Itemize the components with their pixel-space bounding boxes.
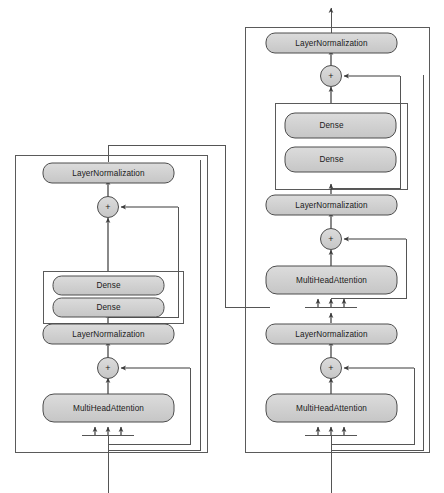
right-dense-lower-node[interactable]: Dense — [285, 147, 396, 172]
left-layernorm-top-node[interactable]: LayerNormalization — [43, 163, 174, 183]
right-layernorm-bottom-label: LayerNormalization — [295, 330, 368, 339]
left-add-top-node[interactable]: + — [98, 197, 119, 218]
right-add-bottom-label: + — [328, 363, 333, 373]
left-multiheadattention-node[interactable]: MultiHeadAttention — [43, 394, 174, 422]
right-add-top-node[interactable]: + — [321, 66, 342, 87]
left-dense-lower-node[interactable]: Dense — [53, 298, 164, 317]
right-add-top-label: + — [328, 71, 333, 81]
left-layernorm-mid-node[interactable]: LayerNormalization — [43, 324, 174, 344]
left-layernorm-top-label: LayerNormalization — [72, 169, 145, 178]
left-add-bottom-label: + — [105, 363, 110, 373]
left-dense-upper-node[interactable]: Dense — [53, 276, 164, 295]
right-dense-upper-label: Dense — [319, 121, 344, 130]
right-multiheadattention-self-label: MultiHeadAttention — [296, 404, 367, 413]
right-layernorm-mid-node[interactable]: LayerNormalization — [266, 195, 397, 215]
right-multiheadattention-cross-label: MultiHeadAttention — [296, 276, 367, 285]
right-multiheadattention-cross-node[interactable]: MultiHeadAttention — [266, 266, 397, 294]
right-add-bottom-node[interactable]: + — [321, 358, 342, 379]
right-layernorm-bottom-node[interactable]: LayerNormalization — [266, 324, 397, 344]
left-add-top-label: + — [105, 202, 110, 212]
right-dense-lower-label: Dense — [319, 155, 344, 164]
right-add-mid-label: + — [328, 234, 333, 244]
left-multiheadattention-label: MultiHeadAttention — [73, 404, 144, 413]
left-dense-lower-label: Dense — [96, 303, 121, 312]
right-layernorm-top-node[interactable]: LayerNormalization — [266, 33, 397, 53]
left-layernorm-mid-label: LayerNormalization — [72, 330, 145, 339]
right-layernorm-mid-label: LayerNormalization — [295, 201, 368, 210]
right-dense-upper-node[interactable]: Dense — [285, 113, 396, 138]
left-dense-upper-label: Dense — [96, 281, 121, 290]
right-multiheadattention-self-node[interactable]: MultiHeadAttention — [266, 394, 397, 422]
left-add-bottom-node[interactable]: + — [98, 358, 119, 379]
right-layernorm-top-label: LayerNormalization — [295, 39, 368, 48]
architecture-diagram: LayerNormalization + Dense Dense LayerNo… — [0, 0, 444, 493]
right-add-mid-node[interactable]: + — [321, 229, 342, 250]
